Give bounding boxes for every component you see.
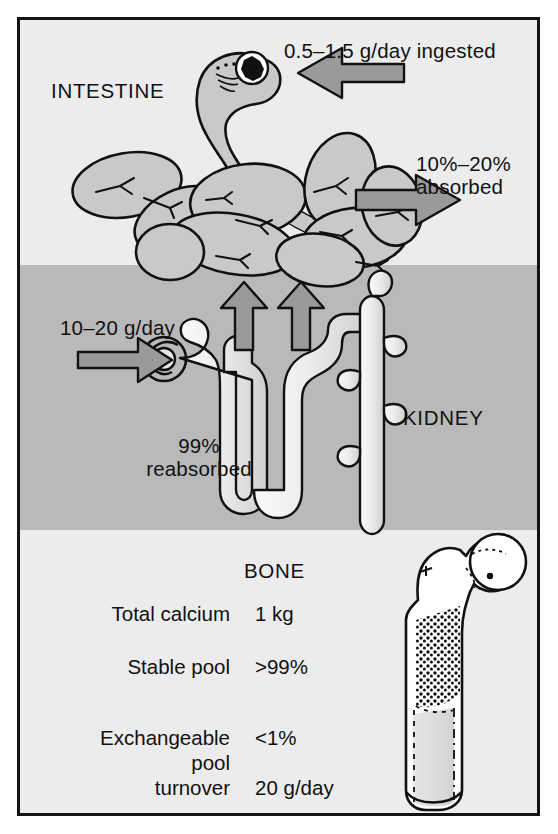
stomach-icon: [197, 52, 281, 182]
distal-tubule-icon: [254, 314, 370, 518]
absorbed-label: 10%–20% absorbed: [416, 153, 511, 199]
bone-row-key: Exchangeable: [58, 726, 230, 750]
bone-row-key: Total calcium: [58, 602, 230, 626]
reabsorbed-label: 99% reabsorbed: [124, 435, 274, 481]
bone-row-key: pool: [58, 751, 230, 775]
kidney-organ-label: KIDNEY: [403, 407, 484, 430]
intestine-organ-label: INTESTINE: [51, 80, 164, 103]
filtered-load-label: 10–20 g/day: [60, 317, 175, 340]
ingested-label: 0.5–1.5 g/day ingested: [284, 40, 496, 63]
bone-row-value: 20 g/day: [255, 776, 334, 800]
bone-organ-label: BONE: [244, 560, 305, 583]
bone-row-key: Stable pool: [58, 655, 230, 679]
calcium-homeostasis-figure: 0.5–1.5 g/day ingested INTESTINE 10%–20%…: [0, 0, 558, 834]
bone-row-value: <1%: [255, 726, 297, 750]
bone-row-value: 1 kg: [255, 602, 294, 626]
femur-bone-icon: [406, 534, 526, 810]
figure-frame: 0.5–1.5 g/day ingested INTESTINE 10%–20%…: [17, 17, 540, 816]
collecting-duct-icon: [360, 296, 384, 534]
bone-row-value: >99%: [255, 655, 308, 679]
arrow-up-icon-right: [278, 282, 324, 350]
bone-row-key: turnover: [58, 776, 230, 800]
